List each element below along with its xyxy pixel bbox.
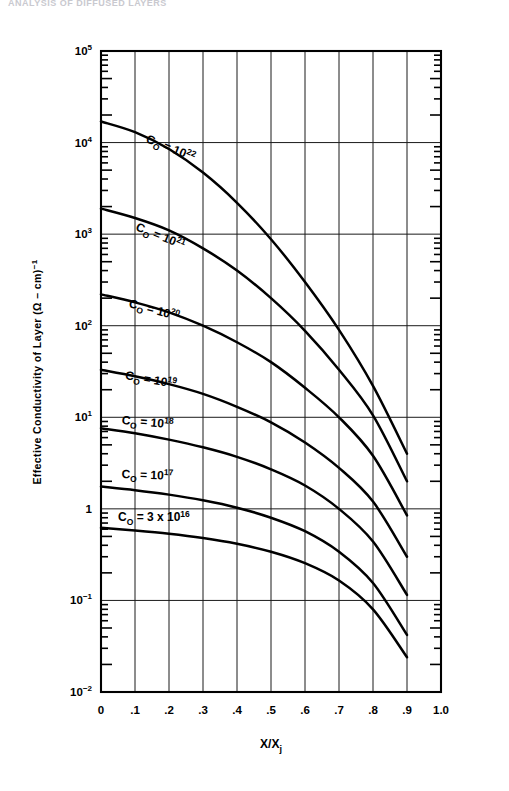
y-tick-label: 10−1: [70, 592, 92, 606]
x-tick-label: .1: [130, 704, 140, 716]
curve-label: CO = 3 x 1016: [118, 509, 190, 527]
data-curve: [101, 294, 407, 515]
curve-label: CO = 1017: [121, 466, 174, 486]
y-axis-tick-labels: 105104103102101110−110−2: [70, 43, 93, 698]
data-curve: [101, 528, 407, 657]
y-tick-label: 101: [75, 409, 93, 423]
x-tick-label: .3: [198, 704, 208, 716]
x-tick-label: 1.0: [433, 704, 449, 716]
y-axis-title: Effective Conductivity of Layer (Ω – cm)…: [30, 259, 43, 484]
x-tick-label: .8: [368, 704, 378, 716]
y-tick-label: 10−2: [70, 684, 92, 698]
x-tick-label: 0: [98, 704, 104, 716]
x-tick-label: .4: [232, 704, 242, 716]
y-tick-label: 105: [75, 43, 93, 57]
page-canvas: ANALYSIS OF DIFFUSED LAYERS CO = 1022CO …: [0, 0, 509, 791]
y-tick-label: 102: [75, 318, 93, 332]
curve-label: CO = 1018: [121, 412, 174, 434]
x-axis-title-group: X/Xj: [260, 737, 282, 754]
data-curve: [101, 121, 407, 453]
x-axis-title: X/Xj: [260, 737, 282, 754]
curve-annotations: CO = 1022CO = 1021CO = 1020CO = 1019CO =…: [118, 130, 198, 526]
y-tick-label: 103: [75, 226, 93, 240]
x-tick-label: .7: [334, 704, 344, 716]
x-axis-tick-labels: 0.1.2.3.4.5.6.7.8.91.0: [98, 704, 449, 716]
curve-label: CO = 1022: [143, 130, 198, 166]
x-tick-label: .6: [300, 704, 310, 716]
chart-svg: CO = 1022CO = 1021CO = 1020CO = 1019CO =…: [0, 0, 509, 791]
x-tick-label: .9: [402, 704, 412, 716]
curve-label: CO = 1019: [124, 367, 178, 394]
y-tick-label: 1: [86, 503, 93, 515]
curve-label: CO = 1021: [133, 218, 188, 254]
data-curves: [101, 121, 407, 657]
y-axis-title-group: Effective Conductivity of Layer (Ω – cm)…: [30, 259, 43, 484]
x-tick-label: .5: [266, 704, 276, 716]
x-tick-label: .2: [164, 704, 174, 716]
y-tick-label: 104: [75, 135, 93, 149]
chart-figure: CO = 1022CO = 1021CO = 1020CO = 1019CO =…: [0, 0, 509, 791]
